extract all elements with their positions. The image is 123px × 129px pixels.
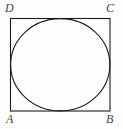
inscribed-circle-shape bbox=[11, 19, 110, 111]
geometry-figure: D C A B bbox=[0, 0, 123, 129]
geometry-canvas bbox=[0, 0, 123, 129]
vertex-label-a: A bbox=[6, 113, 13, 125]
vertex-label-d: D bbox=[5, 2, 14, 14]
vertex-label-c: C bbox=[106, 2, 114, 14]
vertex-label-b: B bbox=[106, 113, 113, 125]
